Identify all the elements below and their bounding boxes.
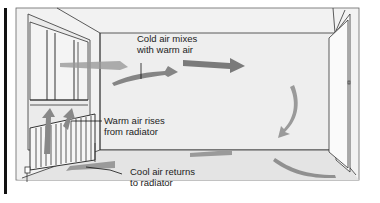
label-cold-air-line1: Cold air mixes — [137, 33, 197, 44]
label-cool-air-returns: Cool air returns to radiator — [130, 166, 195, 188]
label-warm-air-line2: from radiator — [104, 126, 165, 137]
label-cold-air-line2: with warm air — [137, 44, 197, 55]
label-warm-air-line1: Warm air rises — [104, 115, 165, 126]
label-cold-air-mixes: Cold air mixes with warm air — [137, 33, 197, 55]
label-cool-air-line2: to radiator — [130, 177, 195, 188]
label-cool-air-line1: Cool air returns — [130, 166, 195, 177]
label-warm-air-rises: Warm air rises from radiator — [104, 115, 165, 137]
door — [329, 14, 350, 172]
